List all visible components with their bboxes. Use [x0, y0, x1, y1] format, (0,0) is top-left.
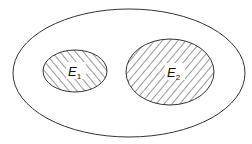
- diagram-svg: E1 E2: [0, 0, 252, 144]
- event-e2: E2: [126, 39, 214, 105]
- venn-diagram: E1 E2: [0, 0, 252, 144]
- event-e1: E1: [43, 50, 107, 92]
